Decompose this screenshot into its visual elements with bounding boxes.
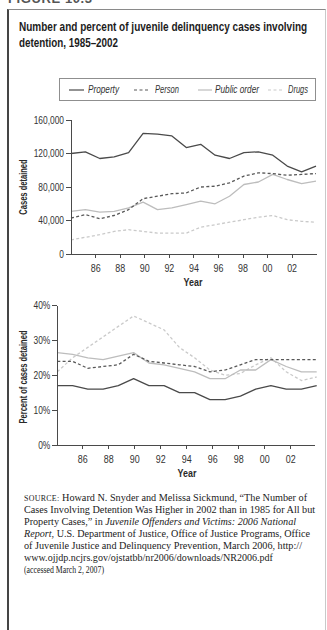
series-line-drugs (71, 216, 316, 240)
x-tick-label: 88 (115, 262, 125, 274)
source-text: Property Cases,” in (24, 515, 105, 527)
source-citation: SOURCE: Howard N. Snyder and Melissa Sic… (24, 491, 327, 575)
source-text: of Juvenile Justice and Delinquency Prev… (24, 539, 302, 551)
source-publication-title: Juvenile Offenders and Victims: 2006 Nat… (105, 515, 296, 527)
series-lines (57, 316, 316, 400)
series-line-public-order (57, 353, 316, 379)
source-accessed-date: (accessed March 2, 2007) (24, 563, 104, 575)
series-line-public-order (71, 174, 316, 212)
x-tick-label: 98 (234, 453, 244, 465)
x-tick-label: 02 (287, 262, 297, 274)
y-tick-label: 120,000 (34, 147, 64, 159)
series-lines (71, 133, 316, 239)
source-url: www.ojjdp.ncjrs.gov/ojstatbb/nr2006/down… (24, 551, 273, 563)
series-line-property (57, 379, 316, 400)
y-tick-label: 40,000 (38, 214, 64, 226)
y-tick-label: 30% (34, 334, 51, 346)
x-tick-label: 94 (182, 453, 192, 465)
x-tick-label: 92 (164, 262, 174, 274)
x-tick-label: 90 (140, 262, 150, 274)
series-line-property (71, 133, 316, 172)
percent-detained-chart: Percent of cases detained Year 0%10%20%3… (18, 299, 317, 479)
x-tick-label: 00 (263, 262, 273, 274)
y-axis-title: Percent of cases detained (18, 330, 29, 423)
y-tick-label: 80,000 (38, 181, 64, 193)
x-tick-label: 86 (91, 262, 101, 274)
source-text: Cases Involving Detention Was Higher in … (24, 503, 315, 515)
y-tick-label: 160,000 (34, 114, 64, 126)
y-tick-label: 0% (38, 439, 51, 451)
source-label: SOURCE: (24, 494, 59, 503)
y-tick-label: 10% (34, 404, 51, 416)
source-text: Howard N. Snyder and Melissa Sickmund, “… (59, 491, 307, 503)
y-tick-label: 20% (34, 369, 51, 381)
y-tick-label: 40% (34, 299, 51, 311)
x-axis-title: Year (178, 467, 197, 479)
x-tick-label: 92 (156, 453, 166, 465)
x-tick-label: 96 (208, 453, 218, 465)
x-tick-label: 94 (189, 262, 199, 274)
cases-detained-chart: Cases detained Year 040,00080,000120,000… (18, 114, 317, 288)
x-tick-label: 86 (78, 453, 88, 465)
x-tick-label: 00 (260, 453, 270, 465)
source-text: , U.S. Department of Justice, Office of … (52, 527, 310, 539)
source-publication-title: Report (24, 527, 52, 539)
x-tick-label: 98 (238, 262, 248, 274)
y-tick-label: 0 (59, 248, 64, 260)
y-axis-title: Cases detained (18, 159, 29, 214)
x-axis-title: Year (184, 276, 203, 288)
x-tick-label: 90 (130, 453, 140, 465)
x-tick-label: 02 (286, 453, 296, 465)
series-line-drugs (57, 316, 316, 381)
x-tick-label: 88 (104, 453, 114, 465)
x-tick-label: 96 (213, 262, 223, 274)
